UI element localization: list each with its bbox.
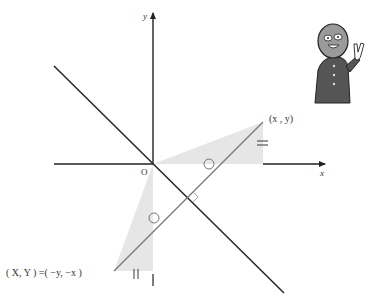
shaded-triangle-upper: [153, 122, 263, 164]
origin-label: O: [141, 167, 148, 177]
shaded-triangle-lower: [114, 164, 153, 271]
mascot-character-icon: [315, 24, 364, 103]
reflection-diagram: y x O (x , y) ( X, Y ) =( −y, −x ): [0, 0, 375, 303]
mirror-line-y-eq-neg-x: [54, 66, 284, 293]
diagram-canvas: y x O (x , y) ( X, Y ) =( −y, −x ): [0, 0, 375, 303]
point-p-label: (x , y): [269, 113, 293, 125]
x-axis-label: x: [319, 168, 324, 178]
segment-p-q: [114, 122, 263, 271]
point-q-label: ( X, Y ) =( −y, −x ): [6, 267, 82, 279]
right-angle-mark: [193, 192, 198, 202]
y-axis-label: y: [142, 11, 147, 21]
